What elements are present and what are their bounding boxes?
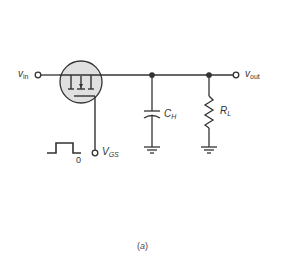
figure-caption: (a) <box>137 241 148 251</box>
vgs-terminal-icon <box>92 150 98 156</box>
capacitor-icon <box>144 75 160 147</box>
vin-label: vin <box>18 69 28 80</box>
vout-label: vout <box>245 69 260 80</box>
vout-terminal-icon <box>233 72 239 78</box>
ground-icon <box>144 147 160 153</box>
resistor-icon <box>205 75 213 147</box>
ground-icon <box>201 147 217 153</box>
ch-label: CH <box>164 109 176 120</box>
vgs-label: VGS <box>102 147 119 158</box>
circuit-diagram <box>0 0 289 258</box>
rl-label: RL <box>220 106 231 117</box>
pulse-zero-label: 0 <box>76 156 81 165</box>
gate-pulse-icon <box>47 143 81 153</box>
vin-terminal-icon <box>35 72 41 78</box>
